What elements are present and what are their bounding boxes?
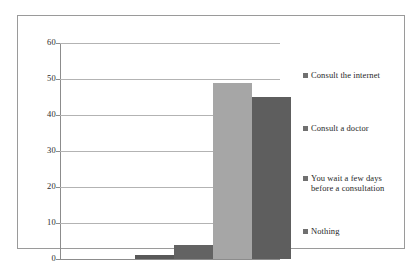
legend-swatch-icon-1: [303, 73, 308, 78]
legend-swatch-icon-4: [303, 229, 308, 234]
tick-mark-0: [56, 259, 60, 260]
legend-label-1: Consult the internet: [311, 70, 380, 80]
legend-swatch-icon-2: [303, 126, 308, 131]
legend-item-1[interactable]: Consult the internet: [303, 70, 415, 80]
gridline-0: [60, 259, 280, 260]
y-tick-label-50: 50: [32, 74, 56, 83]
legend-label-2: Consult a doctor: [311, 123, 369, 133]
tick-mark-20: [56, 187, 60, 188]
tick-mark-40: [56, 115, 60, 116]
y-tick-label-0: 0: [32, 254, 56, 263]
bars-group: [135, 43, 291, 259]
y-tick-label-60: 60: [32, 38, 56, 47]
y-tick-label-20: 20: [32, 182, 56, 191]
chart-canvas: 6050403020100 Consult the internetConsul…: [0, 0, 420, 273]
bar-4[interactable]: [252, 97, 291, 259]
plot-area: [60, 43, 280, 259]
tick-mark-50: [56, 79, 60, 80]
legend-swatch-icon-3: [303, 176, 308, 181]
legend-label-4: Nothing: [311, 226, 340, 236]
bar-3[interactable]: [213, 83, 252, 259]
y-axis-tick-labels: 6050403020100: [28, 43, 56, 260]
bar-1[interactable]: [135, 255, 174, 259]
legend-item-3[interactable]: You wait a few daysbefore a consultation: [303, 173, 415, 193]
tick-mark-30: [56, 151, 60, 152]
chart-legend: Consult the internetConsult a doctorYou …: [303, 43, 413, 259]
y-tick-label-30: 30: [32, 146, 56, 155]
chart-figure-frame: 6050403020100 Consult the internetConsul…: [17, 15, 405, 249]
tick-mark-60: [56, 43, 60, 44]
bar-2[interactable]: [174, 245, 213, 259]
legend-item-4[interactable]: Nothing: [303, 226, 415, 236]
tick-mark-10: [56, 223, 60, 224]
y-tick-label-10: 10: [32, 218, 56, 227]
y-tick-label-40: 40: [32, 110, 56, 119]
legend-label-3: You wait a few daysbefore a consultation: [311, 173, 384, 193]
legend-item-2[interactable]: Consult a doctor: [303, 123, 415, 133]
